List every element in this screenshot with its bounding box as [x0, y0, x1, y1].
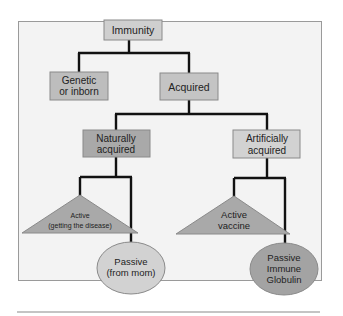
- node-genetic-line2: or inborn: [59, 86, 98, 97]
- node-immunity-label: Immunity: [112, 24, 155, 36]
- node-artificially-acquired: Artificially acquired: [233, 130, 300, 158]
- node-passive-globulin-line1: Passive: [267, 252, 300, 263]
- node-passive-immune-globulin: Passive Immune Globulin: [250, 243, 318, 295]
- node-genetic-line1: Genetic: [62, 75, 96, 86]
- node-artificially-line2: acquired: [248, 145, 286, 156]
- node-acquired: Acquired: [160, 73, 218, 100]
- node-passive-mom-line1: Passive: [114, 256, 147, 267]
- node-passive-from-mom: Passive (from mom): [97, 242, 165, 294]
- node-genetic-or-inborn: Genetic or inborn: [50, 72, 108, 100]
- node-passive-globulin-line2: Immune: [267, 263, 301, 274]
- node-acquired-label: Acquired: [168, 81, 210, 93]
- node-naturally-line1: Naturally: [96, 133, 135, 144]
- node-immunity: Immunity: [104, 20, 162, 40]
- node-naturally-acquired: Naturally acquired: [83, 130, 150, 157]
- node-active-disease-line1: Active: [70, 212, 89, 219]
- node-artificially-line1: Artificially: [246, 133, 288, 144]
- node-naturally-line2: acquired: [97, 144, 135, 155]
- node-active-vaccine-line1: Active: [221, 209, 247, 220]
- immunity-tree-diagram: Immunity Genetic or inborn Acquired Natu…: [0, 0, 343, 316]
- node-passive-globulin-line3: Globulin: [267, 274, 302, 285]
- node-active-disease-line2: (getting the disease): [48, 222, 111, 230]
- node-passive-mom-line2: (from mom): [106, 267, 155, 278]
- node-active-vaccine-line2: vaccine: [218, 220, 250, 231]
